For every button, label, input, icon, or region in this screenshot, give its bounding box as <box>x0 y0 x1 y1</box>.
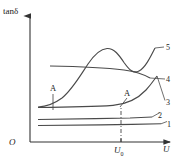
figure-tandelta-vs-voltage: tanδ O U U0 5 4 3 2 1 A A <box>0 0 178 165</box>
annotation-label-a-lower-right: A <box>124 89 130 98</box>
curve-5-leader <box>155 47 164 48</box>
curve-3-leader <box>157 76 165 101</box>
curve-4-leader <box>150 78 165 79</box>
curve-5-path <box>38 48 155 107</box>
curve-2 <box>38 113 160 120</box>
curve-label-3: 3 <box>166 99 170 107</box>
axis-group <box>30 16 170 142</box>
x-tick-label-u0-subscript: 0 <box>121 151 124 157</box>
curve-1-path <box>38 124 161 126</box>
x-tick-label-u0: U0 <box>114 146 124 157</box>
curve-label-5: 5 <box>166 44 170 52</box>
annotation-label-a-upper-left: A <box>50 84 56 93</box>
curve-label-1: 1 <box>167 121 171 129</box>
origin-label: O <box>9 138 16 147</box>
curve-2-path <box>38 117 152 120</box>
curve-label-2: 2 <box>158 112 162 120</box>
y-axis-label: tanδ <box>3 7 18 16</box>
curve-label-4: 4 <box>166 76 170 84</box>
curve-4 <box>50 66 165 79</box>
curve-1 <box>38 122 167 126</box>
curve-3 <box>38 76 165 108</box>
x-axis-label: U <box>163 145 170 154</box>
curve-5 <box>38 47 164 107</box>
plot-canvas <box>0 0 178 165</box>
